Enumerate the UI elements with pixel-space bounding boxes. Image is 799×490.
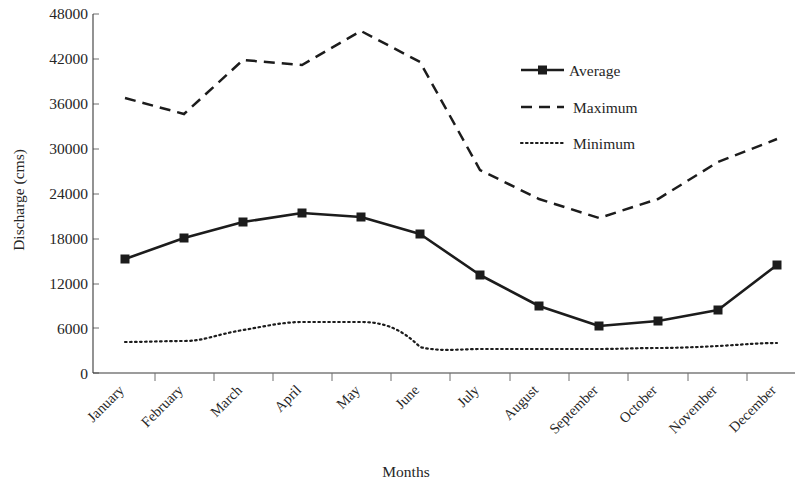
chart-canvas: Discharge (cms) 48000 42000 36000 30000 … [0,0,799,490]
legend-label-minimum: Minimum [573,135,635,152]
data-point-marker [357,213,366,222]
legend-item-minimum[interactable]: Minimum [521,135,635,152]
y-axis-title-text: Discharge (cms) [10,149,28,251]
y-tick-label: 0 [80,365,88,382]
x-tick-labels: January February March April May June Ju… [84,381,779,437]
data-point-marker [714,306,723,315]
x-tick-label-december: December [726,382,780,436]
discharge-line-chart: Discharge (cms) 48000 42000 36000 30000 … [0,0,799,490]
y-tick-labels: 48000 42000 36000 30000 24000 18000 1200… [49,5,88,382]
x-tick-label-march: March [207,381,246,420]
y-tick-label: 18000 [49,230,88,247]
x-tick-label-april: April [271,382,304,415]
y-tick-label: 30000 [49,140,88,157]
legend-label-maximum: Maximum [573,99,638,116]
series-line-maximum [125,31,777,218]
y-tick-label: 48000 [49,5,88,22]
data-point-marker [416,230,425,239]
x-tick-label-september: September [546,382,601,437]
data-point-marker [298,209,307,218]
x-tick-marks [155,373,747,381]
legend-label-average: Average [569,62,620,79]
y-tick-label: 12000 [49,275,88,292]
y-tick-label: 36000 [49,95,88,112]
y-tick-marks [93,14,99,373]
data-point-marker [595,322,604,331]
x-tick-label-june: June [392,382,422,412]
data-point-marker [535,302,544,311]
x-tick-label-november: November [666,382,721,437]
legend-item-maximum[interactable]: Maximum [521,99,638,116]
y-tick-label: 6000 [57,320,88,337]
chart-legend: Average Maximum Minimum [521,62,638,152]
data-point-marker [476,271,485,280]
series-markers-average [121,209,782,331]
series-line-minimum [125,322,777,350]
x-tick-label-july: July [454,381,483,410]
legend-swatch-average-marker [538,66,547,75]
data-point-marker [180,234,189,243]
x-tick-label-october: October [616,382,660,426]
series-line-average [125,213,777,326]
data-point-marker [773,261,782,270]
x-tick-label-august: August [500,382,541,423]
data-point-marker [239,218,248,227]
data-point-marker [121,255,130,264]
y-axis-title: Discharge (cms) [10,149,28,251]
data-point-marker [654,317,663,326]
x-tick-label-january: January [84,381,128,425]
y-tick-label: 42000 [49,50,88,67]
legend-item-average[interactable]: Average [521,62,620,79]
x-tick-label-february: February [138,381,187,430]
x-tick-label-may: May [333,381,364,412]
x-axis-title-text: Months [382,463,429,480]
y-tick-label: 24000 [49,185,88,202]
